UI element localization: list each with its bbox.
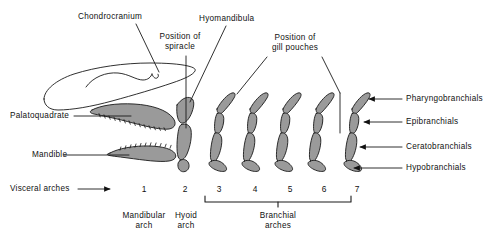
palatoquadrate-label: Palatoquadrate (10, 111, 69, 121)
hypobranchial-3 (209, 160, 227, 171)
pharyngobranchial-7 (352, 93, 370, 114)
position-of-gill-pouches-label-line2: gill pouches (252, 43, 338, 53)
arch-number-7: 7 (350, 184, 364, 194)
chondrocranium-label: Chondrocranium (78, 12, 142, 22)
hypobranchial-5 (275, 160, 293, 171)
pharyngobranchial-5 (283, 93, 301, 114)
arch-number-3: 3 (212, 184, 226, 194)
branchial-arch-4 (242, 93, 268, 172)
arch-number-6: 6 (317, 184, 331, 194)
hyoid-arch-caption-line2: arch (162, 221, 210, 231)
hyoid-arch-caption-line1: Hyoid (162, 211, 210, 221)
hyomandibula-cartilage (177, 97, 194, 123)
branchial-arch-7 (344, 93, 370, 172)
hypobranchial-7 (344, 160, 362, 171)
pharyngobranchial-6 (316, 93, 334, 114)
ceratobranchial-3 (210, 133, 221, 162)
mandible-cartilage (107, 146, 175, 162)
pharyngobranchial-3 (217, 93, 235, 114)
epibranchial-7 (350, 113, 359, 133)
arch-number-1: 1 (137, 184, 151, 194)
palatoquadrate-cartilage (90, 104, 175, 129)
gill-pouches-leader-line-left (237, 57, 267, 94)
ceratobranchial-5 (276, 133, 287, 162)
arch-number-2: 2 (178, 184, 192, 194)
hyoid-basihyal-cartilage (178, 159, 189, 171)
ceratobranchials-label: Ceratobranchials (406, 142, 472, 152)
ceratobranchial-4 (243, 133, 254, 162)
hyomandibula-label: Hyomandibula (199, 14, 254, 24)
branchial-arch-5 (275, 93, 301, 172)
epibranchial-3 (215, 113, 224, 133)
epibranchial-4 (248, 113, 257, 133)
ceratobranchial-7 (345, 133, 356, 162)
ceratobranchial-6 (309, 133, 320, 162)
arch-number-4: 4 (248, 184, 262, 194)
pharyngobranchials-label: Pharyngobranchials (406, 94, 483, 104)
branchial-arch-3 (209, 93, 235, 172)
visceral-arches-label: Visceral arches (10, 184, 70, 194)
chondrocranium-outline (44, 63, 195, 110)
branchial-arches-caption-line1: Branchial (242, 211, 314, 221)
hypobranchial-4 (242, 160, 260, 171)
position-of-gill-pouches-label-line1: Position of (252, 33, 338, 43)
hyoid-ceratohyal-cartilage (177, 124, 191, 160)
arch-number-5: 5 (283, 184, 297, 194)
hypobranchial-6 (308, 160, 326, 171)
gill-pouches-leader-line-right (322, 57, 340, 93)
hypobranchials-label: Hypobranchials (406, 163, 466, 173)
position-of-spiracle-label-line1: Position of (144, 32, 216, 42)
position-of-spiracle-label-line2: spiracle (144, 42, 216, 52)
epibranchials-label: Epibranchials (406, 117, 458, 127)
epibranchial-5 (281, 113, 290, 133)
epibranchial-6 (314, 113, 323, 133)
branchial-arches-caption-line2: arches (242, 221, 314, 231)
pharyngobranchial-4 (250, 93, 268, 114)
mandible-label: Mandible (32, 150, 67, 160)
branchial-arch-6 (308, 93, 334, 172)
branchial-bracket (205, 196, 351, 202)
